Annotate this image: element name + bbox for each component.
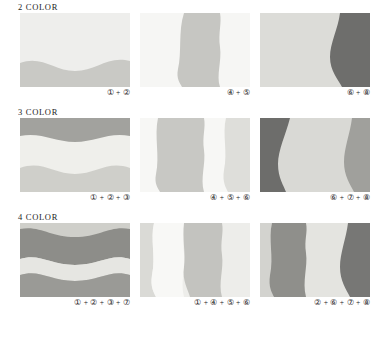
swatch-cell[interactable]: ⑥ + ⑧	[260, 13, 370, 105]
swatch-cell[interactable]: ① + ④ + ⑤ + ⑥	[140, 223, 250, 315]
swatch-cell[interactable]: ② + ⑥ + ⑦ + ⑧	[260, 223, 370, 315]
swatch-cell[interactable]: ④ + ⑤ + ⑥	[140, 118, 250, 210]
swatch-row-4-color: 4 COLOR ① + ② + ③ + ⑦	[0, 210, 381, 315]
swatch-row-3-color: 3 COLOR ① + ② + ③	[0, 105, 381, 210]
swatch-caption: ⑥ + ⑦ + ⑧	[260, 193, 370, 202]
swatch-image	[260, 223, 370, 297]
swatch-image	[140, 223, 250, 297]
row-heading: 3 COLOR	[18, 107, 58, 117]
swatch-graphic	[260, 223, 370, 297]
swatch-cell[interactable]: ④ + ⑤	[140, 13, 250, 105]
swatch-chart-page: 2 COLOR ① + ② ④ + ⑤	[0, 0, 381, 338]
swatch-row-2-color: 2 COLOR ① + ② ④ + ⑤	[0, 0, 381, 105]
swatch-graphic	[260, 118, 370, 192]
swatch-image	[140, 13, 250, 87]
swatch-graphic	[140, 13, 250, 87]
swatch-image	[20, 13, 130, 87]
swatch-caption: ④ + ⑤ + ⑥	[140, 193, 250, 202]
swatch-graphic	[140, 118, 250, 192]
swatch-image	[20, 118, 130, 192]
swatch-cell[interactable]: ① + ② + ③ + ⑦	[20, 223, 130, 315]
swatch-caption: ② + ⑥ + ⑦ + ⑧	[260, 298, 370, 307]
swatch-caption: ① + ②	[20, 88, 130, 97]
swatch-caption: ① + ② + ③ + ⑦	[20, 298, 130, 307]
swatch-caption: ① + ② + ③	[20, 193, 130, 202]
swatch-image	[20, 223, 130, 297]
swatch-graphic	[20, 118, 130, 192]
swatch-caption: ④ + ⑤	[140, 88, 250, 97]
swatch-caption: ① + ④ + ⑤ + ⑥	[140, 298, 250, 307]
row-panels: ① + ② + ③ ④ + ⑤ + ⑥	[0, 118, 381, 210]
swatch-caption: ⑥ + ⑧	[260, 88, 370, 97]
swatch-graphic	[20, 223, 130, 297]
row-heading: 4 COLOR	[18, 212, 58, 222]
swatch-image	[140, 118, 250, 192]
swatch-cell[interactable]: ① + ②	[20, 13, 130, 105]
row-heading: 2 COLOR	[18, 2, 58, 12]
swatch-cell[interactable]: ① + ② + ③	[20, 118, 130, 210]
swatch-image	[260, 118, 370, 192]
swatch-graphic	[260, 13, 370, 87]
swatch-image	[260, 13, 370, 87]
swatch-graphic	[140, 223, 250, 297]
row-panels: ① + ② + ③ + ⑦ ① + ④ + ⑤ + ⑥	[0, 223, 381, 315]
swatch-cell[interactable]: ⑥ + ⑦ + ⑧	[260, 118, 370, 210]
swatch-graphic	[20, 13, 130, 87]
row-panels: ① + ② ④ + ⑤ ⑥ + ⑧	[0, 13, 381, 105]
